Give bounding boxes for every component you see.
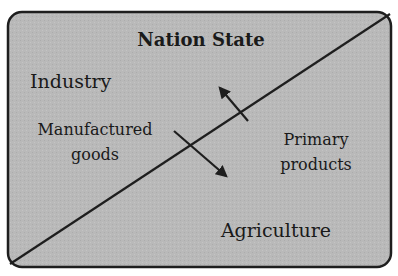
region-label-industry: Industry [30, 70, 112, 92]
flow-label-manufactured-line2: goods [71, 145, 119, 164]
flow-label-primary-line1: Primary [284, 130, 349, 149]
flow-label-manufactured-line1: Manufactured [37, 120, 152, 139]
region-label-agriculture: Agriculture [220, 219, 331, 241]
diagram-title: Nation State [137, 29, 264, 50]
flow-label-primary-line2: products [280, 155, 352, 174]
nation-state-diagram: Nation State Industry Manufactured goods… [0, 0, 398, 276]
